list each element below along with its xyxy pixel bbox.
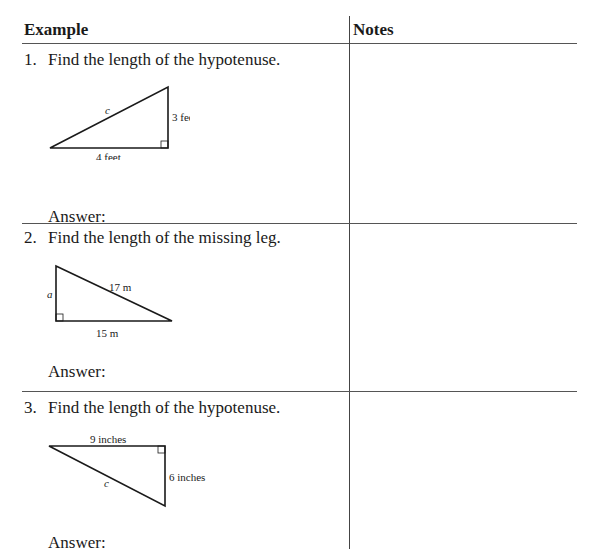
hypotenuse-label: c — [104, 477, 109, 489]
question-3: 3.Find the length of the hypotenuse. — [24, 398, 280, 418]
answer-label-2: Answer: — [48, 362, 106, 382]
question-1: 1.Find the length of the hypotenuse. — [24, 50, 280, 70]
vertical-leg-label: 3 feet — [172, 111, 190, 123]
row-divider-2 — [22, 391, 577, 392]
question-2: 2.Find the length of the missing leg. — [24, 228, 281, 248]
row-divider-1 — [22, 223, 577, 224]
horizontal-leg-label: 15 m — [96, 327, 119, 339]
vertical-leg-label: 6 inches — [169, 471, 205, 483]
column-divider — [349, 16, 350, 549]
hypotenuse-label: 17 m — [109, 281, 132, 293]
question-text: Find the length of the hypotenuse. — [48, 398, 280, 417]
right-triangle-figure-3: 9 inches 6 inches c — [40, 430, 210, 510]
answer-label-3: Answer: — [48, 533, 106, 553]
question-text: Find the length of the missing leg. — [48, 228, 281, 247]
question-text: Find the length of the hypotenuse. — [48, 50, 280, 69]
vertical-leg-label: a — [47, 288, 53, 300]
answer-label-1: Answer: — [48, 207, 106, 227]
horizontal-leg-label: 9 inches — [90, 433, 126, 445]
header-divider — [22, 43, 577, 44]
right-triangle-figure-1: c 3 feet 4 feet — [40, 80, 190, 160]
hypotenuse-label: c — [105, 104, 110, 116]
question-number: 1. — [24, 50, 48, 70]
horizontal-leg-label: 4 feet — [96, 151, 121, 160]
question-number: 2. — [24, 228, 48, 248]
right-triangle-figure-2: a 17 m 15 m — [40, 260, 190, 340]
notes-column-header: Notes — [353, 20, 394, 40]
example-column-header: Example — [24, 20, 88, 40]
question-number: 3. — [24, 398, 48, 418]
